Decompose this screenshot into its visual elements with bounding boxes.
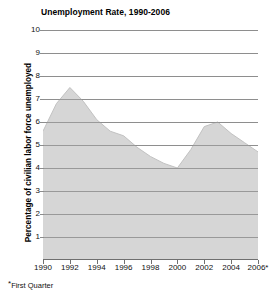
y-tick-label-8: 8 xyxy=(26,72,40,80)
x-tick-mark-1996 xyxy=(124,260,125,264)
y-tick-mark-8 xyxy=(40,76,44,77)
unemployment-rate-chart: Unemployment Rate, 1990-2006 Percentage … xyxy=(0,0,280,296)
x-tick-mark-1998 xyxy=(151,260,152,264)
footnote-text: First Quarter xyxy=(11,281,53,290)
y-tick-label-6: 6 xyxy=(26,118,40,126)
x-tick-mark-2004 xyxy=(231,260,232,264)
footnote: *First Quarter xyxy=(8,279,53,290)
y-tick-mark-5 xyxy=(40,145,44,146)
x-tick-mark-2006 xyxy=(258,260,259,264)
y-axis-tick-labels: 12345678910 xyxy=(22,0,40,296)
plot-area xyxy=(43,30,258,260)
y-tick-label-7: 7 xyxy=(26,95,40,103)
chart-title: Unemployment Rate, 1990-2006 xyxy=(41,7,170,17)
x-tick-mark-1990 xyxy=(43,260,44,264)
y-tick-label-3: 3 xyxy=(26,187,40,195)
y-tick-mark-6 xyxy=(40,122,44,123)
y-tick-label-10: 10 xyxy=(26,26,40,34)
x-tick-mark-2002 xyxy=(204,260,205,264)
x-tick-label-2006: 2006* xyxy=(238,263,278,272)
unemployment-area-series xyxy=(43,88,258,261)
y-tick-mark-1 xyxy=(40,237,44,238)
x-tick-mark-1994 xyxy=(97,260,98,264)
x-tick-mark-1992 xyxy=(70,260,71,264)
y-tick-label-4: 4 xyxy=(26,164,40,172)
y-tick-label-5: 5 xyxy=(26,141,40,149)
y-tick-label-9: 9 xyxy=(26,49,40,57)
y-tick-mark-2 xyxy=(40,214,44,215)
x-tick-mark-2000 xyxy=(177,260,178,264)
y-tick-label-1: 1 xyxy=(26,233,40,241)
y-tick-mark-3 xyxy=(40,191,44,192)
area-chart-svg xyxy=(43,30,258,260)
y-tick-mark-9 xyxy=(40,53,44,54)
x-axis-tick-labels: 199019921994199619982000200220042006* xyxy=(0,263,280,277)
y-tick-label-2: 2 xyxy=(26,210,40,218)
y-tick-mark-7 xyxy=(40,99,44,100)
y-tick-mark-4 xyxy=(40,168,44,169)
y-tick-mark-10 xyxy=(40,30,44,31)
